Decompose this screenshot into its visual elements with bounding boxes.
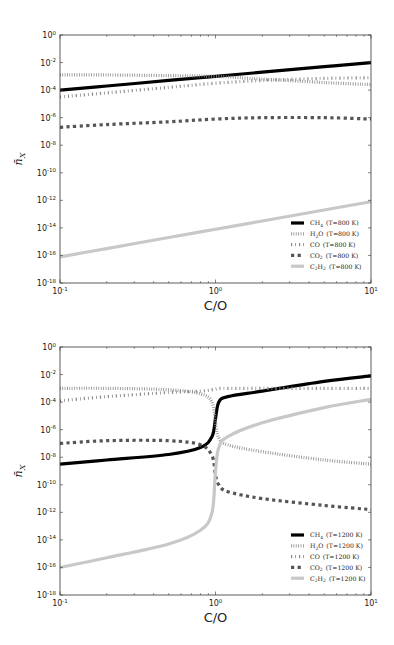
x-axis-label: C/O xyxy=(204,298,228,313)
legend-label: C2H2(T=1200 K) xyxy=(310,575,365,584)
series-line-0 xyxy=(60,63,371,91)
y-tick-label: 10-6 xyxy=(40,424,56,435)
y-tick-label: 10-16 xyxy=(37,250,57,261)
legend: CH4(T=800 K)H2O(T=800 K)CO(T=800 K)CO2(T… xyxy=(291,219,361,271)
y-tick-label: 10-4 xyxy=(40,397,56,408)
y-axis-label: n̄X xyxy=(12,464,27,477)
x-tick-label: 10-1 xyxy=(52,598,68,609)
y-tick-label: 10-12 xyxy=(37,195,56,206)
chart-1200k: 10010-210-410-610-810-1010-1210-1410-161… xyxy=(12,342,378,626)
y-tick-label: 10-10 xyxy=(37,167,57,178)
y-tick-label: 10-10 xyxy=(37,479,57,490)
legend-label: H2O(T=1200 K) xyxy=(310,542,363,551)
plot-area xyxy=(60,63,371,257)
legend: CH4(T=1200 K)H2O(T=1200 K)CO(T=1200 K)CO… xyxy=(291,531,365,583)
y-tick-label: 10-14 xyxy=(37,534,57,545)
y-tick-label: 10-2 xyxy=(40,57,56,68)
series-line-3 xyxy=(60,117,371,127)
x-tick-label: 100 xyxy=(209,598,223,609)
x-tick-label: 10-1 xyxy=(52,286,68,297)
legend-label: CH4(T=800 K) xyxy=(310,219,359,228)
series-line-2 xyxy=(60,388,371,400)
y-tick-label: 10-16 xyxy=(37,562,57,573)
y-tick-label: 10-8 xyxy=(40,140,56,151)
y-tick-label: 10-14 xyxy=(37,222,57,233)
legend-label: CO2(T=1200 K) xyxy=(310,564,362,573)
x-tick-label: 100 xyxy=(209,286,223,297)
y-tick-label: 100 xyxy=(42,30,56,41)
x-tick-label: 101 xyxy=(364,598,378,609)
plot-area xyxy=(60,376,371,568)
legend-label: CO(T=1200 K) xyxy=(310,553,359,560)
legend-label: CO2(T=800 K) xyxy=(310,252,358,261)
y-tick-label: 10-12 xyxy=(37,507,56,518)
y-tick-label: 10-2 xyxy=(40,369,56,380)
y-tick-label: 10-6 xyxy=(40,112,56,123)
y-tick-label: 100 xyxy=(42,342,56,353)
figure: 10010-210-410-610-810-1010-1210-1410-161… xyxy=(0,0,394,645)
legend-label: C2H2(T=800 K) xyxy=(310,263,361,272)
x-axis-label: C/O xyxy=(204,610,228,625)
y-tick-label: 10-4 xyxy=(40,85,56,96)
series-line-4 xyxy=(60,202,371,257)
y-tick-label: 10-8 xyxy=(40,452,56,463)
legend-label: CH4(T=1200 K) xyxy=(310,531,363,540)
legend-label: CO(T=800 K) xyxy=(310,241,355,248)
y-axis-label: n̄X xyxy=(12,152,27,165)
x-tick-label: 101 xyxy=(364,286,378,297)
chart-800k: 10010-210-410-610-810-1010-1210-1410-161… xyxy=(12,30,378,314)
legend-label: H2O(T=800 K) xyxy=(310,230,359,239)
